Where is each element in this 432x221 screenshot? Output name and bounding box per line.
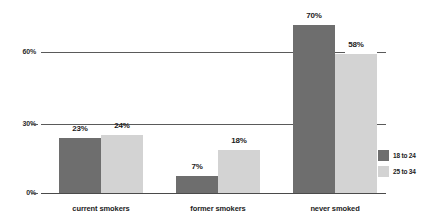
legend-item-25-to-34[interactable]: 25 to 34 bbox=[378, 166, 432, 177]
bar-current-smokers-25-to-34[interactable]: 24% bbox=[101, 135, 143, 193]
legend-item-18-to-24[interactable]: 18 to 24 bbox=[378, 150, 432, 161]
right-axis-tick-30 bbox=[377, 124, 386, 125]
bar-chart: 60% 30% 0% 23% 24% current smokers bbox=[0, 0, 432, 221]
legend-item-label: 25 to 34 bbox=[393, 168, 416, 175]
legend-item-label: 18 to 24 bbox=[393, 152, 416, 159]
bar-never-smoked-25-to-34[interactable]: 58% bbox=[335, 54, 377, 193]
x-axis-category-label-never-smoked: never smoked bbox=[275, 204, 395, 213]
x-axis-category-label-current-smokers: current smokers bbox=[41, 204, 161, 213]
legend-swatch-icon bbox=[378, 150, 389, 161]
bar-value-label: 70% bbox=[306, 11, 321, 20]
bar-value-label: 7% bbox=[191, 162, 202, 171]
legend-swatch-icon bbox=[378, 166, 389, 177]
bar-current-smokers-18-to-24[interactable]: 23% bbox=[59, 138, 101, 193]
bar-value-label: 23% bbox=[72, 124, 87, 133]
y-axis-tick-label-60: 60% bbox=[6, 48, 36, 55]
right-axis-tick-60 bbox=[377, 52, 386, 53]
bar-never-smoked-18-to-24[interactable]: 70% bbox=[293, 25, 335, 193]
legend: 18 to 24 25 to 34 bbox=[378, 150, 432, 182]
bar-value-label: 24% bbox=[114, 121, 129, 130]
bar-former-smokers-25-to-34[interactable]: 18% bbox=[218, 150, 260, 193]
bar-former-smokers-18-to-24[interactable]: 7% bbox=[176, 176, 218, 193]
plot-area: 23% 24% current smokers 7% 18% former sm… bbox=[41, 8, 386, 193]
y-axis-tick-0 bbox=[31, 193, 38, 194]
bar-value-label: 18% bbox=[231, 136, 246, 145]
bar-value-label: 58% bbox=[348, 40, 363, 49]
y-axis-tick-30 bbox=[31, 124, 38, 125]
x-axis-category-label-former-smokers: former smokers bbox=[158, 204, 278, 213]
x-axis-baseline bbox=[41, 193, 386, 194]
